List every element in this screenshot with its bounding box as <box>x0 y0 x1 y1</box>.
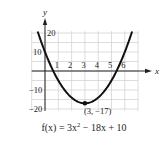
x-tick-label: 2 <box>68 60 72 70</box>
vertex-point <box>83 101 88 106</box>
x-axis-arrow-icon <box>145 69 152 73</box>
formula-rhs: − 18x + 10 <box>80 122 126 133</box>
y-axis-arrow-icon <box>43 18 47 25</box>
y-tick-label: −10 <box>29 85 42 95</box>
formula-lhs: f(x) = 3x <box>41 122 77 133</box>
y-tick-label: 10 <box>33 47 42 57</box>
x-axis-label: x <box>154 66 159 76</box>
y-tick-label: 20 <box>47 28 56 38</box>
vertex-label: (3, −17) <box>84 106 112 116</box>
x-tick-label: 4 <box>95 60 100 70</box>
y-tick-label: −20 <box>29 104 42 114</box>
function-formula: f(x) = 3x2 − 18x + 10 <box>0 121 168 133</box>
x-tick-label: 1 <box>55 60 59 70</box>
x-tick-label: 5 <box>108 60 112 70</box>
x-tick-label: 3 <box>81 60 85 70</box>
y-axis-label: y <box>42 7 47 17</box>
